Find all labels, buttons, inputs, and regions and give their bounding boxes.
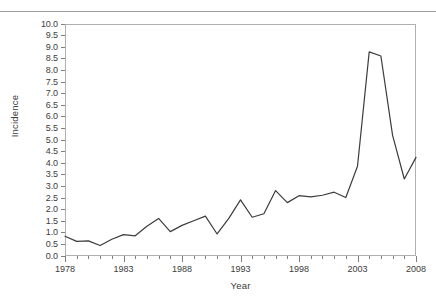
y-axis-tick-label: 5.0 (46, 136, 58, 145)
x-axis-minor-tick-mark (311, 256, 312, 259)
chart-figure: 10.09.59.08.58.07.57.06.56.05.55.04.54.0… (0, 0, 436, 302)
y-axis-tick: 4.0 (46, 158, 65, 169)
y-axis-tick-label: 4.5 (46, 147, 58, 156)
x-axis-minor-tick-mark (170, 256, 171, 259)
y-axis-tick-label: 3.5 (46, 170, 58, 179)
x-axis-minor-tick-mark (77, 256, 78, 259)
y-axis-tick-label: 0.0 (46, 252, 58, 261)
x-axis-tick-label: 1978 (55, 264, 75, 275)
y-axis-tick-label: 0.5 (46, 240, 58, 249)
x-axis-tick-label: 1998 (289, 264, 309, 275)
x-axis-minor-tick-mark (322, 256, 323, 259)
x-axis-minor-tick-mark (334, 256, 335, 259)
y-axis-tick-label: 6.5 (46, 101, 58, 110)
x-axis: Year 1978198319881993199820032008 (65, 256, 416, 302)
x-axis-tick-label: 2003 (347, 264, 367, 275)
y-axis-tick: 1.5 (46, 216, 65, 227)
x-axis-major-tick-mark (416, 256, 417, 262)
x-axis-minor-tick-mark (147, 256, 148, 259)
y-axis-tick: 5.0 (46, 135, 65, 146)
y-axis-tick: 6.0 (46, 111, 65, 122)
x-axis-major-tick-mark (241, 256, 242, 262)
x-axis-major-tick-mark (299, 256, 300, 262)
y-axis-tick: 2.0 (46, 204, 65, 215)
data-series-line (65, 52, 416, 246)
y-axis-tick-label: 2.5 (46, 194, 58, 203)
y-axis-tick-label: 9.0 (46, 43, 58, 52)
x-axis-minor-tick-mark (135, 256, 136, 259)
y-axis-tick-label: 10.0 (41, 20, 58, 29)
x-axis-minor-tick-mark (381, 256, 382, 259)
x-axis-tick-label: 1983 (113, 264, 133, 275)
y-axis-tick: 5.5 (46, 123, 65, 134)
y-axis-tick: 0.5 (46, 239, 65, 250)
y-axis-tick: 2.5 (46, 193, 65, 204)
x-axis-minor-tick-mark (100, 256, 101, 259)
y-axis-tick-label: 9.5 (46, 31, 58, 40)
x-axis-minor-tick-mark (217, 256, 218, 259)
y-axis-tick: 6.5 (46, 100, 65, 111)
y-axis-tick-label: 5.5 (46, 124, 58, 133)
plot-area (65, 24, 416, 256)
y-axis-tick: 4.5 (46, 146, 65, 157)
x-axis-tick-label: 1993 (230, 264, 250, 275)
x-axis-major-tick-mark (358, 256, 359, 262)
x-axis-major-tick-mark (124, 256, 125, 262)
y-axis-tick-label: 6.0 (46, 112, 58, 121)
x-axis-minor-tick-mark (194, 256, 195, 259)
y-axis-tick-label: 8.0 (46, 66, 58, 75)
y-axis-tick-label: 3.0 (46, 182, 58, 191)
y-axis-tick: 1.0 (46, 227, 65, 238)
y-axis-tick: 3.5 (46, 169, 65, 180)
x-axis-minor-tick-mark (393, 256, 394, 259)
header-divider-rule (0, 11, 436, 12)
y-axis-tick: 7.5 (46, 77, 65, 88)
x-axis-minor-tick-mark (252, 256, 253, 259)
x-axis-major-tick-mark (182, 256, 183, 262)
y-axis-tick-label: 1.5 (46, 217, 58, 226)
x-axis-tick-label: 2008 (406, 264, 426, 275)
x-axis-minor-tick-mark (264, 256, 265, 259)
y-axis-tick: 9.0 (46, 42, 65, 53)
x-axis-minor-tick-mark (112, 256, 113, 259)
y-axis-tick: 10.0 (41, 19, 65, 30)
series-line-incidence (65, 24, 416, 256)
y-axis-tick-label: 2.0 (46, 205, 58, 214)
y-axis-tick-label: 1.0 (46, 228, 58, 237)
y-axis-tick: 8.5 (46, 53, 65, 64)
y-axis-tick-label: 4.0 (46, 159, 58, 168)
x-axis-minor-tick-mark (276, 256, 277, 259)
y-axis-tick-label: 7.0 (46, 89, 58, 98)
x-axis-minor-tick-mark (229, 256, 230, 259)
x-axis-major-tick-mark (65, 256, 66, 262)
y-axis-tick: 0.0 (46, 251, 65, 262)
y-axis-tick: 8.0 (46, 65, 65, 76)
x-axis-minor-tick-mark (205, 256, 206, 259)
x-axis-minor-tick-mark (287, 256, 288, 259)
x-axis-minor-tick-mark (404, 256, 405, 259)
x-axis-minor-tick-mark (159, 256, 160, 259)
x-axis-minor-tick-mark (369, 256, 370, 259)
y-axis-tick: 3.0 (46, 181, 65, 192)
y-axis-tick: 7.0 (46, 88, 65, 99)
y-axis-tick-label: 8.5 (46, 54, 58, 63)
x-axis-title: Year (65, 280, 416, 292)
x-axis-minor-tick-mark (88, 256, 89, 259)
x-axis-minor-tick-mark (346, 256, 347, 259)
y-axis-tick-label: 7.5 (46, 78, 58, 87)
x-axis-tick-label: 1988 (172, 264, 192, 275)
y-axis-title: Incidence (8, 0, 22, 232)
y-axis-tick: 9.5 (46, 30, 65, 41)
